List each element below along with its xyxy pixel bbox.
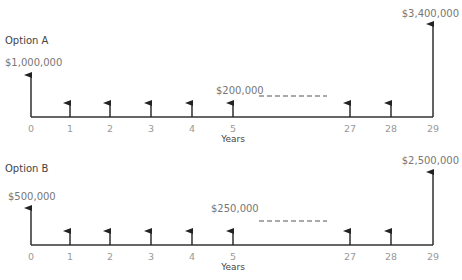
option-a-diagram: Option A012345272829Years$1,000,000$200,…	[5, 8, 459, 144]
initial-amount-label: $500,000	[8, 191, 56, 202]
year-tick-label: 3	[148, 251, 154, 262]
option-title: Option B	[5, 163, 49, 174]
final-amount-label: $2,500,000	[402, 155, 459, 166]
year-tick-label: 29	[427, 123, 439, 134]
year-tick-label: 1	[67, 251, 73, 262]
year-tick-label: 5	[230, 251, 236, 262]
year-tick-label: 0	[28, 123, 34, 134]
annual-amount-label: $200,000	[216, 85, 264, 96]
final-amount-label: $3,400,000	[402, 8, 459, 19]
annual-amount-label: $250,000	[211, 203, 259, 214]
year-tick-label: 27	[344, 123, 356, 134]
axis-label: Years	[220, 262, 245, 272]
year-tick-label: 4	[189, 123, 195, 134]
cash-flow-diagrams: Option A012345272829Years$1,000,000$200,…	[0, 0, 462, 280]
year-tick-label: 4	[189, 251, 195, 262]
option-title: Option A	[5, 35, 49, 46]
year-tick-label: 3	[148, 123, 154, 134]
option-b-diagram: Option B012345272829Years$500,000$250,00…	[5, 155, 459, 272]
year-tick-label: 2	[107, 123, 113, 134]
axis-label: Years	[220, 134, 245, 144]
year-tick-label: 2	[107, 251, 113, 262]
year-tick-label: 1	[67, 123, 73, 134]
year-tick-label: 29	[427, 251, 439, 262]
year-tick-label: 5	[230, 123, 236, 134]
year-tick-label: 28	[385, 251, 397, 262]
initial-amount-label: $1,000,000	[5, 57, 62, 68]
year-tick-label: 0	[28, 251, 34, 262]
year-tick-label: 28	[385, 123, 397, 134]
year-tick-label: 27	[344, 251, 356, 262]
